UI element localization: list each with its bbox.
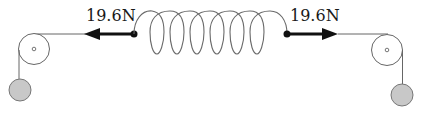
spring-icon	[134, 11, 287, 54]
right-mass	[391, 84, 413, 106]
diagram-canvas: 19.6N 19.6N	[0, 0, 425, 114]
left-pulley	[19, 34, 50, 65]
left-pulley-axle-icon	[32, 47, 36, 51]
right-pulley	[372, 35, 403, 66]
left-force-arrow-icon	[84, 28, 138, 40]
right-force-label: 19.6N	[290, 8, 340, 24]
left-mass	[9, 79, 31, 101]
right-force-arrow-icon	[284, 28, 339, 40]
left-force-label: 19.6N	[86, 8, 136, 24]
right-pulley-axle-icon	[385, 48, 389, 52]
